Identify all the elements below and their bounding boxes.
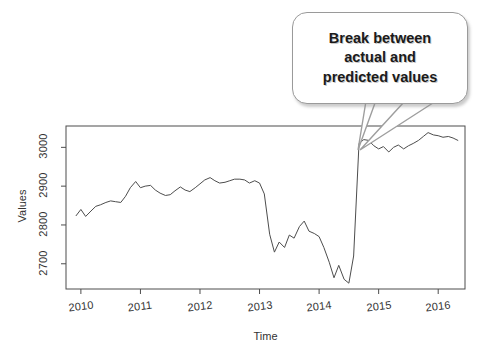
y-axis-ticks bbox=[61, 147, 66, 263]
y-tick-label: 3000 bbox=[37, 131, 49, 161]
y-axis-title: Values bbox=[16, 176, 28, 236]
break-callout-text: Break betweenactual andpredicted values bbox=[317, 29, 443, 86]
x-axis-ticks bbox=[81, 289, 438, 294]
plot-frame bbox=[66, 126, 465, 289]
time-series-line bbox=[76, 133, 458, 284]
callout-text-line: Break between bbox=[323, 29, 437, 48]
callout-text-line: predicted values bbox=[323, 68, 437, 87]
x-axis-title: Time bbox=[226, 330, 306, 342]
break-callout-balloon: Break betweenactual andpredicted values bbox=[292, 12, 468, 104]
forecast-chart-figure: Break betweenactual andpredicted values … bbox=[0, 0, 485, 354]
callout-text-line: actual and bbox=[323, 48, 437, 67]
y-tick-label: 2900 bbox=[37, 170, 49, 200]
y-tick-label: 2700 bbox=[37, 248, 49, 278]
y-tick-label: 2800 bbox=[37, 209, 49, 239]
